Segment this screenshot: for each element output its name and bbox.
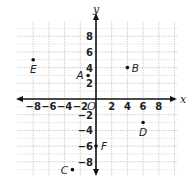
point-D: D (139, 121, 147, 138)
axes (16, 13, 177, 176)
x-tick-label: 8 (155, 101, 162, 112)
point-label: E (30, 63, 37, 75)
y-tick-label: −2 (78, 110, 93, 121)
point-label: B (132, 62, 139, 74)
point-dot-icon (31, 58, 35, 62)
y-tick-label: 8 (86, 31, 93, 42)
point-dot-icon (71, 168, 75, 172)
point-label: C (61, 164, 69, 176)
point-E: E (30, 58, 37, 75)
x-axis-label: x (180, 93, 187, 106)
x-axis-right-arrow-icon (170, 96, 177, 102)
y-tick-label: 4 (86, 63, 93, 74)
point-C: C (61, 164, 74, 176)
y-tick-label: −4 (78, 125, 93, 136)
point-label: D (139, 126, 147, 138)
y-tick-label: 6 (86, 47, 93, 58)
x-tick-label: 6 (140, 101, 147, 112)
point-dot-icon (94, 144, 98, 148)
x-tick-label: −4 (57, 101, 72, 112)
point-dot-icon (86, 74, 90, 78)
point-label: F (101, 140, 108, 152)
coordinate-plane: xyO−8−6−4−224688642−2−4−6−8 ABCDEF (0, 0, 195, 185)
x-tick-label: −6 (41, 101, 56, 112)
y-tick-label: −6 (78, 141, 93, 152)
y-axis-label: y (92, 3, 100, 16)
y-tick-label: 2 (86, 78, 93, 89)
point-label: A (76, 69, 84, 81)
x-tick-label: −8 (26, 101, 41, 112)
point-dot-icon (141, 121, 145, 125)
y-axis-down-arrow-icon (93, 169, 99, 176)
x-tick-label: 4 (124, 101, 131, 112)
x-axis-left-arrow-icon (16, 96, 23, 102)
point-dot-icon (126, 66, 130, 70)
x-tick-label: 2 (108, 101, 115, 112)
y-tick-label: −8 (78, 157, 93, 168)
